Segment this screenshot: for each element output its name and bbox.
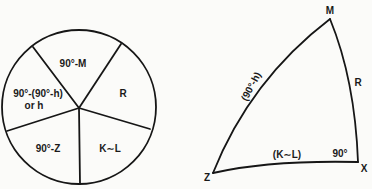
spoke-top-right [79,44,121,108]
part-label-r: R [119,88,127,99]
part-label-k-l: K∼L [99,143,121,154]
spoke-right [79,108,150,129]
side-label-k-l: (K∼L) [273,149,301,160]
vertex-label-m: M [326,5,334,16]
spherical-triangle: M X Z (90°-h) R (K∼L) 90° [204,5,368,183]
part-label-h-line1: 90°-(90°-h) [13,88,63,99]
vertex-label-x: X [361,163,368,174]
angle-label-x: 90° [332,148,347,159]
side-zx [213,162,358,173]
part-label-h-line2: or h [25,100,44,111]
side-label-90-minus-h: (90°-h) [239,70,263,103]
spoke-bottom [79,108,80,184]
side-label-r: R [354,77,362,88]
part-label-90-minus-z: 90°-Z [36,143,61,154]
spoke-left [7,108,79,131]
side-zm [213,19,330,173]
side-mx [330,19,358,162]
vertex-label-z: Z [204,172,210,183]
diagram-canvas: 90°-M R K∼L 90°-Z 90°-(90°-h) or h M X Z… [0,0,372,189]
napier-circle: 90°-M R K∼L 90°-Z 90°-(90°-h) or h [2,30,156,184]
part-label-90-minus-m: 90°-M [60,58,87,69]
